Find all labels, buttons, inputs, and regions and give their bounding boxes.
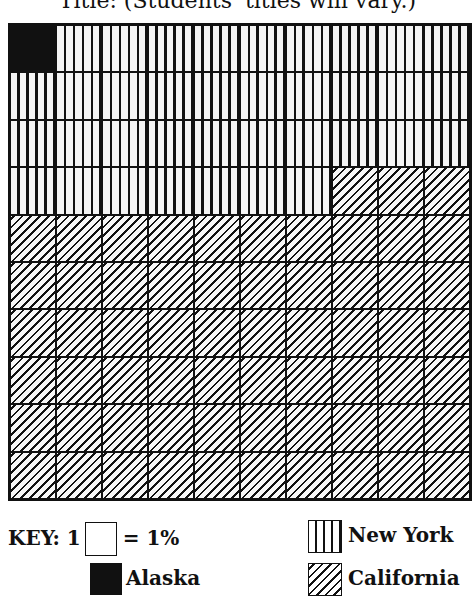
waffle-cell-newyork bbox=[424, 72, 470, 119]
waffle-cell-newyork bbox=[56, 167, 102, 214]
waffle-cell-newyork bbox=[148, 120, 194, 167]
waffle-cell-california bbox=[332, 357, 378, 404]
waffle-cell-california bbox=[10, 404, 56, 451]
waffle-cell-newyork bbox=[102, 120, 148, 167]
waffle-cell-california bbox=[56, 452, 102, 499]
waffle-cell-california bbox=[332, 167, 378, 214]
waffle-cell-california bbox=[286, 215, 332, 262]
waffle-cell-california bbox=[194, 357, 240, 404]
waffle-cell-newyork bbox=[56, 120, 102, 167]
waffle-cell-newyork bbox=[332, 120, 378, 167]
vertical-stripes-icon bbox=[308, 520, 342, 553]
waffle-cell-california bbox=[194, 215, 240, 262]
key-unit: KEY: 1= 1% bbox=[8, 522, 179, 556]
waffle-cell-newyork bbox=[102, 72, 148, 119]
key-unit-text: = 1% bbox=[123, 526, 180, 550]
waffle-cell-newyork bbox=[240, 120, 286, 167]
waffle-cell-newyork bbox=[56, 72, 102, 119]
legend-item-new-york: New York bbox=[308, 520, 453, 553]
waffle-cell-newyork bbox=[194, 25, 240, 72]
waffle-cell-california bbox=[378, 309, 424, 356]
key-label: KEY: 1 bbox=[8, 526, 81, 550]
waffle-cell-california bbox=[332, 215, 378, 262]
waffle-cell-california bbox=[148, 262, 194, 309]
waffle-cell-california bbox=[10, 262, 56, 309]
waffle-cell-california bbox=[194, 309, 240, 356]
waffle-cell-newyork bbox=[240, 25, 286, 72]
waffle-cell-newyork bbox=[286, 167, 332, 214]
waffle-cell-california bbox=[424, 167, 470, 214]
legend-label: New York bbox=[348, 523, 453, 547]
waffle-cell-newyork bbox=[378, 72, 424, 119]
waffle-cell-california bbox=[148, 404, 194, 451]
waffle-cell-california bbox=[10, 309, 56, 356]
solid-square-icon bbox=[90, 563, 122, 595]
waffle-cell-california bbox=[286, 452, 332, 499]
waffle-cell-newyork bbox=[56, 25, 102, 72]
waffle-cell-california bbox=[102, 357, 148, 404]
waffle-cell-california bbox=[56, 215, 102, 262]
waffle-cell-california bbox=[194, 404, 240, 451]
waffle-cell-california bbox=[148, 452, 194, 499]
waffle-cell-california bbox=[332, 404, 378, 451]
waffle-cell-newyork bbox=[240, 167, 286, 214]
waffle-cell-newyork bbox=[148, 167, 194, 214]
chart-title: Title: (Students' titles will vary.) bbox=[0, 0, 475, 14]
waffle-cell-california bbox=[378, 167, 424, 214]
waffle-cell-newyork bbox=[240, 72, 286, 119]
waffle-cell-newyork bbox=[424, 120, 470, 167]
waffle-cell-newyork bbox=[10, 72, 56, 119]
waffle-cell-newyork bbox=[378, 120, 424, 167]
waffle-cell-california bbox=[378, 404, 424, 451]
waffle-cell-california bbox=[424, 309, 470, 356]
waffle-cell-california bbox=[378, 262, 424, 309]
waffle-cell-california bbox=[10, 215, 56, 262]
waffle-cell-newyork bbox=[332, 72, 378, 119]
waffle-cell-california bbox=[378, 452, 424, 499]
waffle-cell-california bbox=[240, 262, 286, 309]
legend-label: Alaska bbox=[126, 566, 200, 590]
waffle-cell-california bbox=[102, 262, 148, 309]
waffle-cell-california bbox=[332, 309, 378, 356]
waffle-cell-alaska bbox=[10, 25, 56, 72]
waffle-cell-newyork bbox=[102, 25, 148, 72]
waffle-cell-california bbox=[378, 215, 424, 262]
waffle-cell-california bbox=[424, 452, 470, 499]
waffle-cell-california bbox=[240, 215, 286, 262]
waffle-cell-california bbox=[148, 309, 194, 356]
waffle-cell-california bbox=[286, 357, 332, 404]
waffle-cell-california bbox=[56, 357, 102, 404]
waffle-cell-california bbox=[102, 215, 148, 262]
legend-item-california: California bbox=[308, 563, 460, 596]
waffle-cell-newyork bbox=[148, 25, 194, 72]
waffle-cell-newyork bbox=[148, 72, 194, 119]
waffle-cell-california bbox=[424, 262, 470, 309]
waffle-cell-california bbox=[332, 452, 378, 499]
waffle-cell-california bbox=[286, 262, 332, 309]
waffle-cell-newyork bbox=[10, 120, 56, 167]
waffle-cell-california bbox=[286, 404, 332, 451]
waffle-cell-california bbox=[240, 404, 286, 451]
waffle-cell-california bbox=[56, 309, 102, 356]
waffle-cell-california bbox=[240, 452, 286, 499]
waffle-cell-newyork bbox=[424, 25, 470, 72]
waffle-cell-california bbox=[240, 309, 286, 356]
waffle-cell-newyork bbox=[286, 120, 332, 167]
waffle-cell-california bbox=[102, 309, 148, 356]
waffle-cell-california bbox=[378, 357, 424, 404]
waffle-cell-california bbox=[148, 357, 194, 404]
waffle-cell-california bbox=[194, 262, 240, 309]
waffle-cell-california bbox=[148, 215, 194, 262]
waffle-cell-newyork bbox=[10, 167, 56, 214]
diagonal-stripes-icon bbox=[308, 563, 342, 596]
waffle-cell-newyork bbox=[332, 25, 378, 72]
legend-label: California bbox=[348, 566, 460, 590]
waffle-cell-california bbox=[424, 404, 470, 451]
waffle-cell-california bbox=[102, 452, 148, 499]
waffle-cell-california bbox=[286, 309, 332, 356]
waffle-cell-newyork bbox=[194, 120, 240, 167]
waffle-cell-california bbox=[56, 262, 102, 309]
waffle-cell-newyork bbox=[194, 72, 240, 119]
waffle-cell-newyork bbox=[286, 25, 332, 72]
waffle-cell-california bbox=[10, 452, 56, 499]
